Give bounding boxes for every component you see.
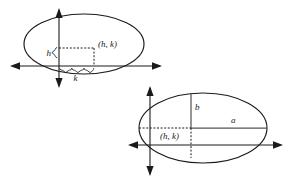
upper-center-point-label: (h, k) bbox=[98, 39, 117, 49]
upper-x-axis-right-arrowhead bbox=[152, 62, 162, 70]
upper-h-label: h bbox=[47, 48, 52, 58]
lower-semi-minor-axis-label: b bbox=[195, 102, 200, 112]
diagram-canvas: (h, k) h k bbox=[0, 0, 290, 180]
lower-x-axis-right-arrowhead bbox=[273, 141, 283, 149]
upper-y-axis-bottom-arrowhead bbox=[55, 78, 62, 88]
upper-left-ellipse-group: (h, k) h k bbox=[10, 8, 162, 88]
lower-y-axis bbox=[146, 86, 153, 176]
ellipse-diagram-figure: (h, k) h k bbox=[0, 0, 290, 180]
upper-x-axis bbox=[10, 62, 162, 70]
upper-y-axis-top-arrowhead bbox=[55, 8, 62, 18]
upper-center-guides bbox=[59, 48, 94, 66]
upper-ellipse-curve bbox=[24, 14, 144, 74]
lower-y-axis-top-arrowhead bbox=[146, 86, 153, 96]
upper-k-brace-right-half bbox=[84, 69, 94, 73]
upper-k-brace-middle-half bbox=[72, 69, 84, 73]
lower-center-point-label: (h, k) bbox=[160, 131, 179, 141]
upper-h-brace bbox=[52, 48, 57, 58]
upper-k-label: k bbox=[74, 73, 79, 83]
upper-h-brace-path bbox=[52, 48, 57, 58]
lower-x-axis-left-arrowhead bbox=[128, 141, 138, 149]
lower-right-ellipse-group: b a (h, k) bbox=[128, 86, 283, 176]
upper-x-axis-left-arrowhead bbox=[10, 62, 20, 70]
lower-semi-major-axis-label: a bbox=[231, 115, 236, 125]
upper-k-brace bbox=[60, 69, 94, 73]
lower-y-axis-bottom-arrowhead bbox=[146, 166, 153, 176]
lower-x-axis bbox=[128, 141, 283, 149]
